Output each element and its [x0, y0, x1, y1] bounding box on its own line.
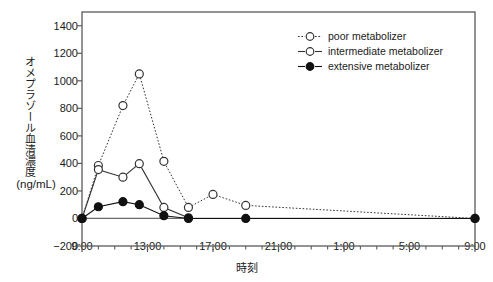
data-point: [209, 190, 217, 198]
data-point: [184, 214, 192, 222]
data-point: [135, 160, 143, 168]
legend-label: extensive metabolizer: [328, 60, 430, 73]
data-point: [119, 102, 127, 110]
data-point: [242, 201, 250, 209]
data-point: [94, 203, 102, 211]
series-poor-metabolizer: [78, 70, 479, 223]
data-point: [160, 212, 168, 220]
legend-marker-icon: [297, 45, 323, 58]
legend-marker-icon: [297, 60, 323, 73]
data-point: [119, 173, 127, 181]
legend-item-extensive-metabolizer: extensive metabolizer: [297, 59, 443, 74]
chart-figure: オメプラゾール血清濃度 (ng/mL) −2000200400600800100…: [0, 0, 493, 282]
chart-legend: poor metabolizerintermediate metabolizer…: [297, 29, 443, 74]
data-point: [78, 214, 86, 222]
data-point: [471, 214, 479, 222]
data-point: [160, 157, 168, 165]
data-series-layer: [78, 70, 479, 223]
data-point: [160, 203, 168, 211]
data-point: [135, 201, 143, 209]
data-point: [94, 166, 102, 174]
data-point: [119, 198, 127, 206]
series-intermediate-metabolizer: [78, 160, 192, 223]
legend-marker-icon: [297, 30, 323, 43]
legend-item-poor-metabolizer: poor metabolizer: [297, 29, 443, 44]
x-axis-title: 時刻: [0, 259, 493, 275]
data-point: [135, 70, 143, 78]
data-point: [184, 203, 192, 211]
legend-item-intermediate-metabolizer: intermediate metabolizer: [297, 44, 443, 59]
legend-label: poor metabolizer: [328, 30, 406, 43]
legend-label: intermediate metabolizer: [328, 45, 443, 58]
data-point: [242, 214, 250, 222]
